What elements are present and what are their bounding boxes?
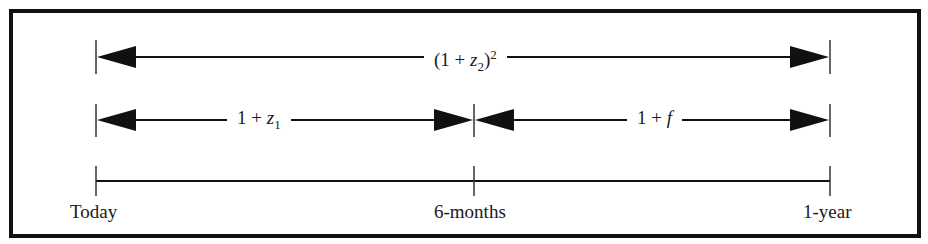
arrowhead-left-icon: [97, 46, 136, 68]
timeline-axis: [96, 166, 830, 196]
label-variable: f: [667, 107, 672, 128]
timeline-label-1-year: 1-year: [803, 201, 852, 223]
label-prefix: (1 +: [434, 49, 470, 70]
arrowhead-right-icon: [790, 109, 829, 131]
label-two-period-spot: (1 + z2)2: [424, 44, 507, 78]
label-forward-rate: 1 + f: [627, 107, 682, 129]
arrowhead-left-icon: [97, 109, 136, 131]
timeline-label-today: Today: [70, 201, 117, 223]
label-variable: z: [267, 107, 274, 128]
arrowhead-right-icon: [790, 46, 829, 68]
label-prefix: 1 +: [237, 107, 267, 128]
label-prefix: 1 +: [637, 107, 667, 128]
arrowhead-left-icon: [475, 109, 514, 131]
timeline-label-6-months: 6-months: [434, 201, 506, 223]
label-first-period-spot: 1 + z1: [227, 107, 291, 136]
label-subscript: 1: [274, 117, 281, 132]
arrowhead-right-icon: [434, 109, 473, 131]
label-superscript: 2: [490, 47, 497, 62]
